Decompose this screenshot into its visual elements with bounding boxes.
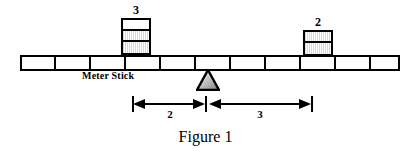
right-span-value: 3 <box>225 108 295 120</box>
left-weight-blocks <box>121 18 151 55</box>
left-weight-stack: 3 <box>121 4 151 55</box>
beam-tick <box>194 57 196 69</box>
beam-tick <box>229 57 231 69</box>
weight-block <box>123 42 149 53</box>
beam-tick <box>89 57 91 69</box>
weight-block <box>123 31 149 42</box>
right-weight-label: 2 <box>315 16 321 28</box>
weight-block <box>305 32 331 43</box>
beam-tick <box>299 57 301 69</box>
right-weight-blocks <box>303 30 333 56</box>
right-span-arrowhead-left <box>209 99 221 109</box>
beam-tick <box>264 57 266 69</box>
fulcrum-icon <box>196 69 220 91</box>
left-weight-label: 3 <box>133 4 139 16</box>
beam-tick <box>54 57 56 69</box>
figure-caption: Figure 1 <box>0 128 411 146</box>
fulcrum-triangle <box>196 69 220 91</box>
dimension-arrows-svg <box>0 94 411 124</box>
left-span-value: 2 <box>140 108 200 120</box>
right-span-arrowhead-right <box>299 99 311 109</box>
beam-tick <box>334 57 336 69</box>
figure-diagram: 3 2 Meter Stick <box>0 0 411 159</box>
meter-stick-label: Meter Stick <box>82 70 134 81</box>
beam-tick <box>124 57 126 69</box>
beam-tick <box>369 57 371 69</box>
right-weight-stack: 2 <box>303 16 333 56</box>
dimension-annotations: 2 3 <box>0 94 411 124</box>
weight-block <box>305 43 331 54</box>
beam-tick <box>159 57 161 69</box>
weight-block <box>123 20 149 31</box>
